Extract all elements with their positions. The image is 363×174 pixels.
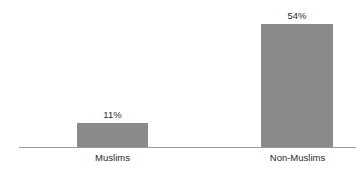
- bar-muslims: [77, 123, 148, 148]
- category-label-muslims: Muslims: [62, 152, 163, 164]
- bar-non-muslims: [261, 24, 333, 148]
- category-label-non-muslims: Non-Muslims: [247, 152, 348, 164]
- plot-area: [0, 0, 363, 148]
- bar-chart: 11% 54% Muslims Non-Muslims: [0, 0, 363, 174]
- x-axis-line: [19, 147, 356, 148]
- value-label-muslims: 11%: [77, 109, 148, 120]
- value-label-non-muslims: 54%: [261, 10, 333, 21]
